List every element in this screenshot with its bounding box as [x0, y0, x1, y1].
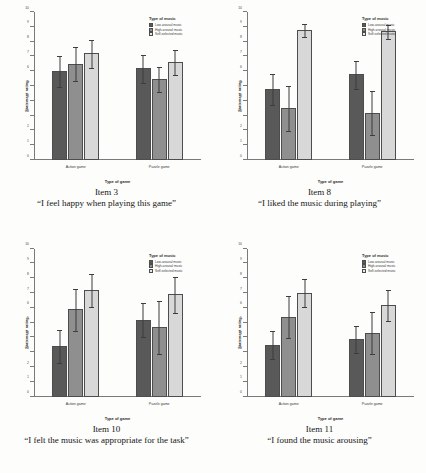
- y-axis-tick-label: 9: [27, 258, 29, 261]
- legend-item[interactable]: Low-arousal music: [149, 23, 205, 27]
- bar[interactable]: [52, 346, 67, 396]
- legend-swatch-icon: [149, 32, 153, 36]
- y-axis-tick-label: 8: [27, 37, 29, 40]
- error-bar: [75, 289, 76, 332]
- chart-figure: Statement rating012345678910Action gameP…: [4, 243, 209, 423]
- bar[interactable]: [349, 339, 364, 397]
- y-axis-tick-label: 6: [240, 303, 242, 306]
- bar[interactable]: [365, 113, 380, 160]
- y-axis-tick-label: 1: [27, 377, 29, 380]
- bar[interactable]: [297, 30, 312, 160]
- bar[interactable]: [265, 345, 280, 397]
- legend-item[interactable]: Self-selected music: [362, 32, 418, 36]
- figure-caption: Item 3“I feel happy when playing this ga…: [4, 187, 209, 210]
- error-bar: [372, 91, 373, 136]
- error-bar: [91, 40, 92, 69]
- caption-item-label: Item 10: [4, 424, 209, 435]
- legend-swatch-icon: [362, 32, 366, 36]
- bar[interactable]: [349, 74, 364, 160]
- bar[interactable]: [381, 31, 396, 160]
- figure-caption: Item 10“I felt the music was appropriate…: [4, 424, 209, 447]
- legend-item-label: High-arousal music: [155, 264, 182, 268]
- legend-item[interactable]: Low-arousal music: [362, 260, 418, 264]
- bar[interactable]: [365, 333, 380, 397]
- x-axis-label: Type of game: [34, 179, 201, 184]
- legend-item[interactable]: High-arousal music: [362, 264, 418, 268]
- bar-slot: [265, 249, 280, 397]
- bar[interactable]: [281, 317, 296, 397]
- error-bar: [143, 55, 144, 84]
- legend-item[interactable]: Self-selected music: [149, 32, 205, 36]
- y-axis-tick-label: 7: [27, 288, 29, 291]
- chart-figure: Statement rating012345678910Action gameP…: [217, 243, 422, 423]
- y-axis-tick-label: 5: [27, 81, 29, 84]
- y-axis-tick-label: 5: [240, 317, 242, 320]
- y-axis-tick-label: 0: [240, 155, 242, 158]
- y-axis-tick-label: 5: [27, 317, 29, 320]
- caption-item-label: Item 3: [4, 187, 209, 198]
- error-bar: [272, 74, 273, 106]
- bar[interactable]: [152, 327, 167, 397]
- legend-item-label: Self-selected music: [368, 32, 396, 36]
- legend-swatch-icon: [362, 264, 366, 268]
- x-axis-category-label: Action game: [66, 402, 86, 406]
- x-axis-category-label: Puzzle game: [149, 402, 170, 406]
- y-axis-tick-label: 7: [27, 51, 29, 54]
- legend-item-label: Low-arousal music: [155, 23, 182, 27]
- x-axis-category-label: Action game: [66, 165, 86, 169]
- bar-slot: [297, 249, 312, 397]
- error-bar: [304, 279, 305, 308]
- figure-caption: Item 8“I liked the music during playing”: [217, 187, 422, 210]
- bar[interactable]: [68, 64, 83, 160]
- x-axis-category-label: Action game: [279, 165, 299, 169]
- bar[interactable]: [68, 309, 83, 396]
- legend-item[interactable]: Self-selected music: [149, 269, 205, 273]
- bar-slot: [52, 249, 67, 397]
- bar[interactable]: [52, 71, 67, 160]
- caption-statement-text: “I found the music arousing”: [217, 435, 422, 446]
- legend-swatch-icon: [149, 269, 153, 273]
- y-axis-tick-label: 8: [27, 273, 29, 276]
- bar-slot: [84, 12, 99, 160]
- bar[interactable]: [381, 305, 396, 397]
- legend-swatch-icon: [362, 260, 366, 264]
- x-axis-category-label: Action game: [279, 402, 299, 406]
- error-bar: [356, 61, 357, 90]
- caption-item-label: Item 8: [217, 187, 422, 198]
- bar[interactable]: [84, 53, 99, 160]
- legend-swatch-icon: [362, 28, 366, 32]
- y-axis-tick-label: 2: [27, 362, 29, 365]
- y-axis-tick-label: 9: [240, 258, 242, 261]
- error-bar: [372, 312, 373, 355]
- y-axis-tick-label: 4: [240, 332, 242, 335]
- chart-figure: Statement rating012345678910Action gameP…: [217, 6, 422, 186]
- y-axis-tick-label: 10: [238, 7, 242, 10]
- bar[interactable]: [281, 108, 296, 160]
- x-axis-category-label: Puzzle game: [362, 165, 383, 169]
- caption-item-label: Item 11: [217, 424, 422, 435]
- y-axis-tick-label: 8: [240, 37, 242, 40]
- error-bar: [91, 274, 92, 309]
- bar[interactable]: [297, 293, 312, 397]
- figure-caption: Item 11“I found the music arousing”: [217, 424, 422, 447]
- x-axis-category-label: Puzzle game: [149, 165, 170, 169]
- bar-slot: [68, 12, 83, 160]
- bar[interactable]: [168, 294, 183, 396]
- bar[interactable]: [265, 89, 280, 160]
- legend-item[interactable]: High-arousal music: [149, 264, 205, 268]
- legend-item[interactable]: Low-arousal music: [362, 23, 418, 27]
- bar[interactable]: [136, 68, 151, 160]
- error-bar: [159, 301, 160, 356]
- legend-item[interactable]: Self-selected music: [362, 269, 418, 273]
- legend-item[interactable]: High-arousal music: [149, 28, 205, 32]
- y-axis-tick-label: 1: [27, 140, 29, 143]
- bar-slot: [297, 12, 312, 160]
- bar[interactable]: [84, 290, 99, 397]
- legend-item[interactable]: High-arousal music: [362, 28, 418, 32]
- legend-item-label: High-arousal music: [155, 28, 182, 32]
- bar[interactable]: [136, 320, 151, 397]
- y-axis-tick-label: 7: [240, 288, 242, 291]
- bar[interactable]: [168, 62, 183, 160]
- bar[interactable]: [152, 79, 167, 160]
- legend-item[interactable]: Low-arousal music: [149, 260, 205, 264]
